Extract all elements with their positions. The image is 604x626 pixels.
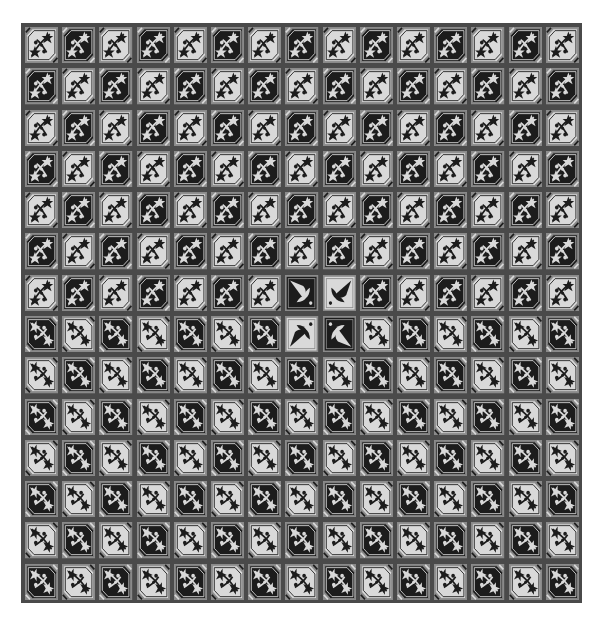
tile-dark[interactable]	[137, 440, 170, 476]
tile-light[interactable]	[285, 481, 318, 517]
tile-dark[interactable]	[174, 481, 207, 517]
tile-dark[interactable]	[546, 151, 579, 187]
tile-dark[interactable]	[471, 68, 504, 104]
tile-light[interactable]	[211, 481, 244, 517]
tile-light[interactable]	[137, 233, 170, 269]
tile-light[interactable]	[397, 357, 430, 393]
tile-dark[interactable]	[360, 192, 393, 228]
tile-light[interactable]	[434, 564, 467, 600]
tile-light[interactable]	[248, 440, 281, 476]
tile-light[interactable]	[471, 440, 504, 476]
tile-light[interactable]	[248, 522, 281, 558]
tile-dark[interactable]	[99, 68, 132, 104]
tile-dark[interactable]	[25, 68, 58, 104]
tile-dark[interactable]	[323, 399, 356, 435]
tile-dark[interactable]	[174, 564, 207, 600]
tile-dark[interactable]	[99, 564, 132, 600]
tile-dark[interactable]	[509, 192, 542, 228]
tile-light[interactable]	[174, 440, 207, 476]
tile-light[interactable]	[397, 522, 430, 558]
tile-dark[interactable]	[137, 522, 170, 558]
tile-light[interactable]	[471, 522, 504, 558]
tile-light[interactable]	[99, 110, 132, 146]
tile-dark[interactable]	[471, 233, 504, 269]
tile-light[interactable]	[360, 68, 393, 104]
tile-dark[interactable]	[285, 110, 318, 146]
tile-dark[interactable]	[323, 151, 356, 187]
tile-dark[interactable]	[99, 481, 132, 517]
tile-dark[interactable]	[25, 233, 58, 269]
tile-dark[interactable]	[434, 522, 467, 558]
tile-dark[interactable]	[285, 440, 318, 476]
tile-light[interactable]	[174, 192, 207, 228]
tile-light[interactable]	[434, 316, 467, 352]
tile-dark[interactable]	[397, 233, 430, 269]
tile-light[interactable]	[285, 233, 318, 269]
tile-dark[interactable]	[434, 440, 467, 476]
tile-light[interactable]	[137, 316, 170, 352]
tile-dark[interactable]	[62, 440, 95, 476]
tile-dark[interactable]	[360, 275, 393, 311]
tile-light[interactable]	[323, 27, 356, 63]
tile-dark[interactable]	[509, 27, 542, 63]
tile-light[interactable]	[137, 481, 170, 517]
tile-light[interactable]	[360, 151, 393, 187]
tile-light[interactable]	[211, 233, 244, 269]
tile-dark[interactable]	[174, 399, 207, 435]
tile-dark[interactable]	[248, 399, 281, 435]
tile-light[interactable]	[360, 481, 393, 517]
tile-light[interactable]	[25, 357, 58, 393]
tile-light[interactable]	[323, 192, 356, 228]
tile-dark[interactable]	[285, 357, 318, 393]
tile-light[interactable]	[546, 275, 579, 311]
tile-dark[interactable]	[62, 110, 95, 146]
tile-light[interactable]	[285, 151, 318, 187]
tile-dark[interactable]	[360, 27, 393, 63]
tile-dark[interactable]	[397, 68, 430, 104]
tile-light[interactable]	[434, 233, 467, 269]
tile-dark[interactable]	[99, 316, 132, 352]
tile-light[interactable]	[360, 316, 393, 352]
tile-light[interactable]	[99, 440, 132, 476]
tile-dark[interactable]	[546, 399, 579, 435]
tile-dark[interactable]	[99, 151, 132, 187]
tile-light[interactable]	[211, 564, 244, 600]
tile-light[interactable]	[62, 481, 95, 517]
tile-light[interactable]	[62, 316, 95, 352]
tile-light[interactable]	[397, 192, 430, 228]
tile-dark[interactable]	[285, 27, 318, 63]
tile-dark[interactable]	[211, 192, 244, 228]
tile-light[interactable]	[62, 564, 95, 600]
tile-dark[interactable]	[471, 151, 504, 187]
tile-light[interactable]	[434, 481, 467, 517]
tile-light[interactable]	[137, 151, 170, 187]
tile-light[interactable]	[471, 357, 504, 393]
tile-dark[interactable]	[509, 440, 542, 476]
tile-light[interactable]	[546, 27, 579, 63]
tile-light[interactable]	[99, 522, 132, 558]
tile-dark[interactable]	[285, 192, 318, 228]
tile-light[interactable]	[62, 151, 95, 187]
tile-light[interactable]	[137, 68, 170, 104]
tile-dark[interactable]	[434, 192, 467, 228]
tile-light[interactable]	[360, 233, 393, 269]
tile-light[interactable]	[509, 481, 542, 517]
tile-light[interactable]	[25, 522, 58, 558]
tile-light[interactable]	[509, 564, 542, 600]
tile-light[interactable]	[248, 27, 281, 63]
tile-dark[interactable]	[211, 522, 244, 558]
tile-dark[interactable]	[211, 440, 244, 476]
tile-dark[interactable]	[248, 151, 281, 187]
tile-dark[interactable]	[546, 316, 579, 352]
tile-light[interactable]	[323, 110, 356, 146]
tile-light[interactable]	[211, 151, 244, 187]
tile-dark[interactable]	[174, 68, 207, 104]
tile-light[interactable]	[434, 151, 467, 187]
tile-dark[interactable]	[248, 316, 281, 352]
tile-dark[interactable]	[62, 357, 95, 393]
tile-dark[interactable]	[397, 399, 430, 435]
tile-dark[interactable]	[248, 481, 281, 517]
tile-dark[interactable]	[211, 27, 244, 63]
tile-light[interactable]	[174, 27, 207, 63]
tile-dark[interactable]	[25, 481, 58, 517]
